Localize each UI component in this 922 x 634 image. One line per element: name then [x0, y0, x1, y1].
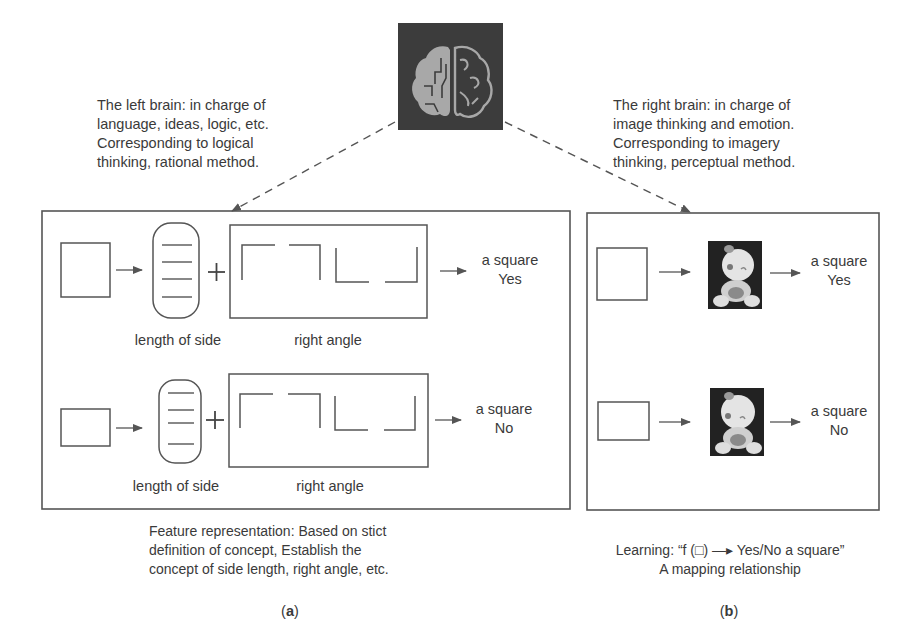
result-text: a square — [799, 402, 879, 421]
result-text: a square — [799, 252, 879, 271]
right-angle-label: right angle — [280, 477, 380, 496]
doll-image-yes — [708, 241, 762, 309]
length-of-side-label: length of side — [126, 477, 226, 496]
caption-line: Learning: “f (□) —▸ Yes/No a square” — [560, 541, 900, 560]
right-angle-label: right angle — [278, 331, 378, 350]
result-value: No — [464, 419, 544, 438]
result-value: Yes — [799, 271, 879, 290]
brain-circuit-icon — [398, 23, 503, 130]
result-value: No — [799, 421, 879, 440]
caption-line: image thinking and emotion. — [613, 115, 795, 134]
length-of-side-label: length of side — [128, 331, 228, 350]
caption-line: concept of side length, right angle, etc… — [149, 560, 389, 579]
caption-line: A mapping relationship — [560, 560, 900, 579]
result-label-yes: a square Yes — [470, 251, 550, 289]
caption-line: definition of concept, Establish the — [149, 541, 389, 560]
panel-a-caption: Feature representation: Based on stict d… — [149, 522, 389, 579]
panel-letter: a — [286, 603, 294, 619]
panel-b-label: (b) — [709, 602, 749, 621]
caption-line: Feature representation: Based on stict — [149, 522, 389, 541]
result-label-yes: a square Yes — [799, 252, 879, 290]
caption-line: thinking, rational method. — [97, 153, 269, 172]
caption-line: language, ideas, logic, etc. — [97, 115, 269, 134]
caption-line: The right brain: in charge of — [613, 96, 795, 115]
result-label-no: a square No — [799, 402, 879, 440]
caption-line: Corresponding to logical — [97, 134, 269, 153]
caption-line: thinking, perceptual method. — [613, 153, 795, 172]
right-brain-caption: The right brain: in charge of image thin… — [613, 96, 795, 172]
doll-image-no — [710, 388, 764, 456]
panel-letter: b — [725, 603, 734, 619]
result-label-no: a square No — [464, 400, 544, 438]
result-value: Yes — [470, 270, 550, 289]
result-text: a square — [470, 251, 550, 270]
caption-line: The left brain: in charge of — [97, 96, 269, 115]
left-brain-caption: The left brain: in charge of language, i… — [97, 96, 269, 172]
result-text: a square — [464, 400, 544, 419]
panel-b-caption: Learning: “f (□) —▸ Yes/No a square” A m… — [560, 541, 900, 579]
caption-line: Corresponding to imagery — [613, 134, 795, 153]
panel-a-label: (a) — [270, 602, 310, 621]
